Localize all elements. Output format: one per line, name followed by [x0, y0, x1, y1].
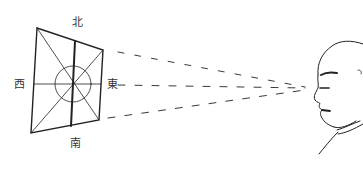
perspective-compass-diagram: 北 南 東 西 — [0, 0, 363, 170]
mouth — [322, 110, 330, 111]
label-west: 西 — [14, 79, 25, 90]
eyebrow — [321, 72, 337, 75]
sight-line-middle — [118, 85, 305, 88]
sight-line-bottom — [108, 90, 305, 118]
label-east: 東 — [107, 79, 118, 90]
head-profile — [314, 41, 363, 154]
diagonal-line-1 — [37, 28, 99, 120]
diagram-canvas — [0, 0, 363, 170]
square-plane — [31, 28, 103, 133]
label-south: 南 — [70, 138, 81, 149]
diagonal-line-2 — [31, 50, 103, 133]
sight-line-top — [118, 52, 305, 87]
label-north: 北 — [72, 17, 83, 28]
